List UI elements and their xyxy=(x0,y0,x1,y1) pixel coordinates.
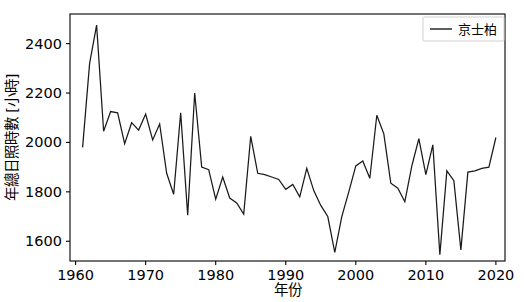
plot-area-background xyxy=(70,14,505,261)
y-axis-tick-labels: 16001800200022002400 xyxy=(25,36,62,250)
x-tick-label: 2000 xyxy=(337,267,374,283)
x-axis-tick-labels: 1960197019801990200020102020 xyxy=(57,267,514,283)
chart-figure: 1960197019801990200020102020 16001800200… xyxy=(0,0,524,302)
y-tick-label: 1600 xyxy=(25,233,62,249)
x-tick-label: 2010 xyxy=(407,267,444,283)
y-axis-tickmarks xyxy=(66,44,70,242)
y-tick-label: 2400 xyxy=(25,36,62,52)
y-tick-label: 2200 xyxy=(25,85,62,101)
x-tick-label: 1990 xyxy=(267,267,304,283)
x-tick-label: 1970 xyxy=(127,267,164,283)
x-axis-tickmarks xyxy=(76,261,496,265)
y-tick-label: 1800 xyxy=(25,184,62,200)
line-chart: 1960197019801990200020102020 16001800200… xyxy=(0,0,524,302)
y-axis-title: 年總日照時數 [小時] xyxy=(3,74,20,202)
x-tick-label: 1980 xyxy=(197,267,234,283)
x-tick-label: 2020 xyxy=(477,267,514,283)
x-tick-label: 1960 xyxy=(57,267,94,283)
legend-entry-label: 京士柏 xyxy=(458,22,497,37)
x-axis-title: 年份 xyxy=(274,282,303,298)
y-tick-label: 2000 xyxy=(25,134,62,150)
chart-legend[interactable]: 京士柏 xyxy=(423,17,504,41)
